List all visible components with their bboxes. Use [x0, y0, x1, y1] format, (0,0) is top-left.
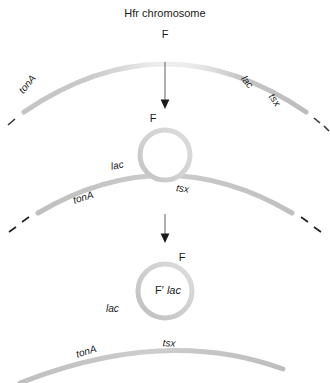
stage2-gene-tsx: tsx [175, 183, 189, 195]
arrow-head [161, 100, 170, 110]
stage2-dash-right-2 [314, 227, 321, 232]
arrow-head [161, 234, 170, 244]
arrow-stage1-to-stage2 [161, 62, 170, 109]
f-prime-letter: F [155, 284, 162, 296]
arrow-stage2-to-stage3 [161, 214, 170, 243]
chromosome-dash-right-2 [324, 126, 329, 131]
stage2-f-label: F [150, 113, 157, 124]
stage2-dash-left-2 [9, 227, 16, 232]
f-prime-lac-label: F′ lac [155, 285, 181, 296]
stage3-gene-tsx: tsx [162, 338, 175, 349]
stage3-f-label: F [179, 252, 186, 263]
f-factor-loop-circle [140, 130, 190, 180]
stage1-f-label: F [162, 29, 169, 40]
diagram-canvas [0, 0, 330, 383]
stage-1-chromosome-group [8, 64, 329, 131]
page-title: Hfr chromosome [124, 8, 205, 19]
stage3-gene-lac: lac [106, 304, 119, 314]
stage-3-group [20, 264, 283, 383]
f-prime-formation-diagram: Hfr chromosome F tonA lac tsx F lac tonA… [0, 0, 330, 383]
prime-mark: ′ [162, 284, 164, 296]
f-prime-gene: lac [167, 284, 181, 296]
stage3-chromosome-arc [20, 351, 283, 383]
stage2-dash-right-1 [301, 217, 308, 222]
chromosome-dash-left-1 [8, 119, 15, 125]
chromosome-dash-right-1 [314, 118, 320, 123]
stage2-dash-left-1 [22, 217, 29, 222]
